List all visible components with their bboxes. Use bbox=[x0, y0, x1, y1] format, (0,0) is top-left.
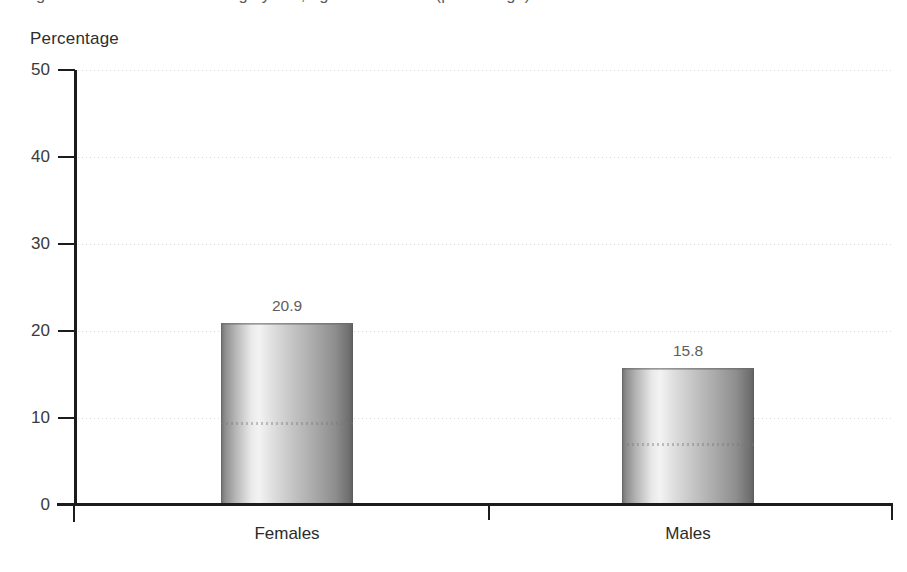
y-tick-20 bbox=[58, 330, 75, 332]
bar-dotted-band bbox=[221, 422, 353, 425]
cropped-title-text: Figure: Prevalence of smoking by sex, ag… bbox=[22, 0, 530, 4]
bar-top-rim bbox=[622, 368, 754, 370]
gridline-40 bbox=[74, 157, 893, 158]
gridline-30 bbox=[74, 244, 893, 245]
y-tick-10 bbox=[58, 417, 75, 419]
gridline-10 bbox=[74, 418, 893, 419]
x-axis-line bbox=[57, 503, 893, 506]
gridline-20 bbox=[74, 331, 893, 332]
x-tick-right bbox=[891, 506, 893, 520]
y-tick-label-20: 20 bbox=[4, 321, 50, 341]
bar-value-label-females: 20.9 bbox=[272, 297, 302, 315]
y-tick-40 bbox=[58, 156, 75, 158]
y-tick-label-10: 10 bbox=[4, 408, 50, 428]
x-tick-middle bbox=[488, 506, 490, 520]
y-tick-label-30: 30 bbox=[4, 234, 50, 254]
gridline-50 bbox=[74, 70, 893, 71]
x-axis-label-males: Males bbox=[665, 524, 710, 544]
y-tick-label-0: 0 bbox=[4, 495, 50, 515]
bar-females bbox=[221, 323, 353, 505]
cropped-title-sliver: Figure: Prevalence of smoking by sex, ag… bbox=[0, 0, 907, 13]
y-tick-30 bbox=[58, 243, 75, 245]
plot-area: 20.915.8 bbox=[74, 70, 893, 505]
bar-top-rim bbox=[221, 323, 353, 325]
bar-dotted-band bbox=[622, 443, 754, 446]
y-tick-label-50: 50 bbox=[4, 60, 50, 80]
bar-males bbox=[622, 368, 754, 505]
y-axis-title: Percentage bbox=[30, 29, 119, 49]
bar-value-label-males: 15.8 bbox=[673, 342, 703, 360]
x-tick-left bbox=[73, 506, 75, 522]
x-axis-label-females: Females bbox=[254, 524, 319, 544]
y-tick-label-40: 40 bbox=[4, 147, 50, 167]
bar-chart-figure: Figure: Prevalence of smoking by sex, ag… bbox=[0, 0, 907, 572]
y-axis-line bbox=[74, 70, 77, 506]
y-tick-50 bbox=[58, 69, 75, 71]
